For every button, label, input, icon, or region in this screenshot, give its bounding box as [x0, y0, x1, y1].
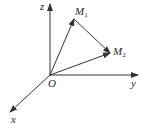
point-m2-name: M [113, 45, 122, 57]
vector-diagram: z y x O M1 M2 [0, 0, 146, 134]
point-m1-name: M [75, 5, 84, 17]
x-axis [10, 75, 50, 112]
point-m1-subscript: 1 [84, 11, 88, 19]
diagram-lines [0, 0, 146, 134]
point-m2-subscript: 2 [122, 51, 126, 59]
x-axis-label: x [11, 114, 16, 125]
vector-om2 [50, 53, 110, 75]
z-axis-label: z [40, 1, 44, 12]
vector-m1m2 [74, 19, 110, 53]
point-m2-label: M2 [113, 46, 126, 59]
origin-label: O [48, 78, 56, 89]
y-axis-label: y [131, 78, 136, 89]
point-m1-label: M1 [75, 6, 88, 19]
vector-om1 [50, 19, 74, 75]
